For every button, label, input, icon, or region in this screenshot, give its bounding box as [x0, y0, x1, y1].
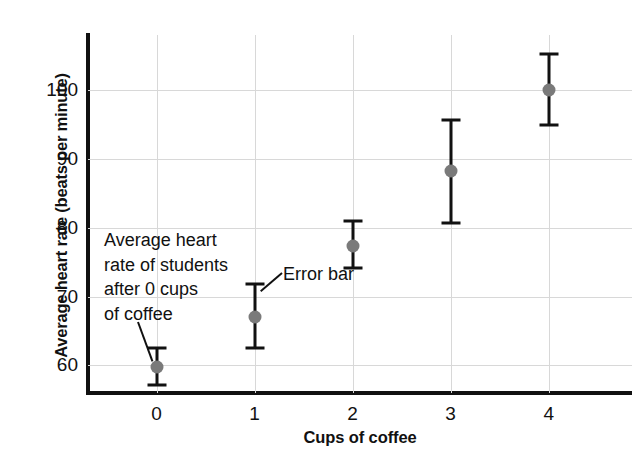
x-tick-label: 1	[235, 404, 275, 423]
gridline-horizontal	[88, 159, 632, 160]
x-axis-title: Cups of coffee	[88, 428, 632, 447]
x-tick-label: 0	[137, 404, 177, 423]
gridline-vertical	[157, 35, 158, 393]
y-axis-title: Average heart rate (beats per minute)	[52, 16, 71, 416]
annotation-error-bar-label: Error bar	[283, 262, 354, 287]
x-tick-label: 2	[333, 404, 373, 423]
error-bar-cap-lower	[441, 221, 460, 224]
error-bar-cap-lower	[539, 123, 558, 126]
data-point-marker	[542, 84, 555, 97]
data-point-marker	[346, 240, 359, 253]
error-bar-cap-upper	[343, 219, 362, 222]
gridline-vertical	[353, 35, 354, 393]
x-tick-label: 4	[529, 404, 569, 423]
error-bar-cap-upper	[147, 346, 166, 349]
gridline-horizontal	[88, 365, 632, 366]
chart-root: Average heart rate (beats per minute) Cu…	[0, 0, 636, 473]
error-bar-cap-lower	[245, 347, 264, 350]
plot-area	[88, 35, 632, 393]
data-point-marker	[248, 310, 261, 323]
x-tick-label: 3	[431, 404, 471, 423]
data-point-marker	[150, 360, 163, 373]
error-bar-cap-upper	[539, 53, 558, 56]
data-point-marker	[444, 165, 457, 178]
error-bar-cap-upper	[245, 283, 264, 286]
error-bar-cap-lower	[147, 383, 166, 386]
annotation-point-explainer: Average heart rate of students after 0 c…	[104, 228, 228, 326]
error-bar-cap-upper	[441, 118, 460, 121]
